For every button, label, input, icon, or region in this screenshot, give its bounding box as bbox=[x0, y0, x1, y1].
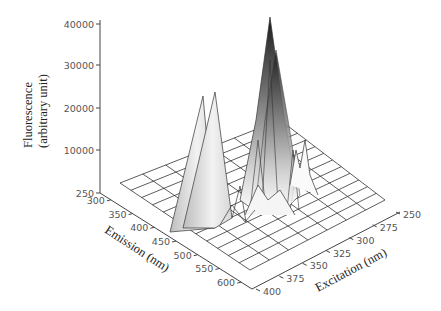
emission-tick-label: 450 bbox=[152, 236, 170, 247]
z-tick-label: 20000 bbox=[64, 103, 94, 114]
surface-peaks bbox=[170, 17, 318, 232]
excitation-tick-label: 325 bbox=[333, 248, 351, 259]
emission-tick-label: 350 bbox=[108, 209, 126, 220]
emission-tick-label: 550 bbox=[195, 263, 213, 274]
z-axis-label-line2: (arbitrary unit) bbox=[36, 74, 50, 148]
z-tick-label: 10000 bbox=[64, 145, 94, 156]
z-tick-label: 30000 bbox=[64, 60, 94, 71]
excitation-tick-label: 300 bbox=[356, 235, 374, 246]
z-axis-ticks: 40000300002000010000250 bbox=[64, 19, 100, 199]
z-tick-label: 40000 bbox=[64, 19, 94, 30]
eem-surface-chart: 40000300002000010000250 3003504004505005… bbox=[0, 0, 441, 311]
emission-tick-label: 400 bbox=[130, 222, 148, 233]
excitation-tick-label: 250 bbox=[403, 209, 421, 220]
emission-tick-label: 300 bbox=[87, 195, 105, 206]
z-axis-label-line1: Fluorescence bbox=[21, 82, 35, 148]
excitation-tick-label: 275 bbox=[380, 222, 398, 233]
emission-tick-label: 600 bbox=[217, 277, 235, 288]
excitation-tick-label: 400 bbox=[263, 286, 281, 297]
excitation-tick-label: 375 bbox=[286, 273, 304, 284]
emission-tick-label: 500 bbox=[174, 250, 192, 261]
excitation-tick-label: 350 bbox=[310, 260, 328, 271]
